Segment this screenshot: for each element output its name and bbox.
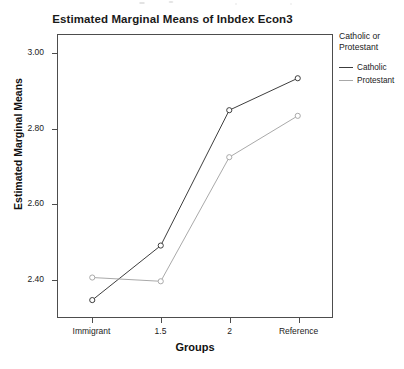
- legend-title-line-1: Catholic or: [339, 31, 401, 42]
- legend-line-swatch: [339, 67, 353, 68]
- legend: Catholic or Protestant CatholicProtestan…: [339, 31, 404, 87]
- series-line: [92, 78, 298, 300]
- y-tick-label: 2.60: [10, 198, 44, 208]
- y-tick-label: 2.40: [10, 274, 44, 284]
- x-tick-mark: [92, 318, 93, 323]
- y-tick-label: 3.00: [10, 47, 44, 57]
- y-tick-label: 2.80: [10, 123, 44, 133]
- data-point-marker: [158, 279, 163, 284]
- legend-title: Catholic or Protestant: [339, 31, 401, 52]
- data-point-marker: [158, 243, 163, 248]
- legend-label: Catholic: [357, 63, 387, 72]
- legend-entry-protestant: Protestant: [339, 74, 404, 87]
- top-edge-artifact: [0, 0, 404, 8]
- chart-figure: Estimated Marginal Means of Inbdex Econ3…: [0, 0, 404, 369]
- legend-entries: CatholicProtestant: [339, 61, 404, 87]
- series-protestant: [90, 113, 301, 284]
- legend-title-line-2: Protestant: [339, 42, 401, 53]
- legend-entry-catholic: Catholic: [339, 61, 404, 74]
- data-point-marker: [90, 297, 95, 302]
- data-point-marker: [295, 113, 300, 118]
- x-axis-title: Groups: [57, 341, 333, 353]
- x-tick-label: Reference: [254, 326, 344, 336]
- data-point-marker: [295, 76, 300, 81]
- x-tick-mark: [299, 318, 300, 323]
- data-point-marker: [227, 155, 232, 160]
- legend-line-swatch: [339, 80, 353, 81]
- series-line: [92, 116, 298, 281]
- data-point-marker: [90, 275, 95, 280]
- x-tick-mark: [230, 318, 231, 323]
- x-tick-mark: [161, 318, 162, 323]
- series-catholic: [90, 76, 301, 303]
- data-point-marker: [227, 108, 232, 113]
- y-axis: Estimated Marginal Means 3.002.802.602.4…: [0, 0, 57, 369]
- plot-lines: [58, 35, 332, 317]
- legend-label: Protestant: [357, 76, 394, 85]
- plot-area: [57, 34, 333, 318]
